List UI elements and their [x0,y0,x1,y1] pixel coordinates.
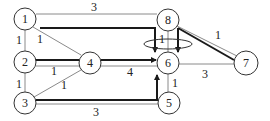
weight-3-4: 1 [61,78,67,92]
node-label-8: 8 [165,13,171,27]
node-label-1: 1 [22,12,28,26]
weight-2-3: 1 [16,77,22,91]
node-label-5: 5 [166,96,172,110]
network-diagram: 1 2 3 4 5 6 7 8 3 1 1 1 1 1 3 4 1 1 3 1 [0,0,270,121]
node-label-7: 7 [243,56,249,70]
weight-1-4: 1 [37,32,43,46]
node-label-4: 4 [87,56,93,70]
weight-1-8: 3 [91,0,97,14]
weight-5-6: 1 [172,76,178,90]
weight-6-7: 3 [202,67,208,81]
flow-1-6 [40,28,155,52]
weight-8-7: 1 [215,28,221,42]
flow-8-7 [178,28,234,60]
node-label-6: 6 [165,56,171,70]
weight-2-4: 1 [51,64,57,78]
flow-3-6 [36,75,157,100]
weight-1-2: 1 [16,33,22,47]
weight-8-6: 1 [159,32,165,46]
node-label-3: 3 [22,96,28,110]
weight-4-6: 4 [127,65,133,79]
edge-3-4 [34,70,81,97]
node-label-2: 2 [22,55,28,69]
weight-3-5: 3 [93,105,99,119]
